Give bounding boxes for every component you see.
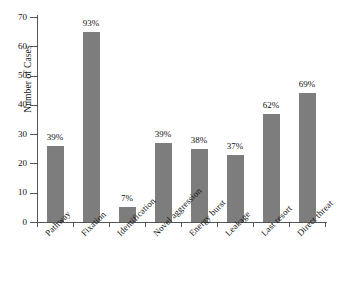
y-axis-tick [30,222,37,223]
x-axis-tick [289,222,290,227]
bar-value-label: 7% [107,194,147,203]
y-axis-tick [30,163,37,164]
bar [83,32,100,222]
y-axis-tick [30,17,37,18]
bar-value-label: 37% [215,142,255,151]
x-axis-tick [253,222,254,227]
bar [155,143,172,222]
y-axis-tick [30,105,37,106]
y-axis-tick [30,76,37,77]
bar [263,114,280,222]
x-axis-tick [217,222,218,227]
bar [191,149,208,222]
y-axis-tick [30,193,37,194]
bar [47,146,64,222]
y-axis-tick-label: 40 [0,100,27,109]
y-axis-tick-label: 60 [0,42,27,51]
y-axis-tick-label: 30 [0,130,27,139]
y-axis-tick-label: 20 [0,159,27,168]
x-axis-tick [325,222,326,227]
y-axis-tick-label: 70 [0,13,27,22]
bar [299,93,316,222]
x-axis-tick [37,222,38,227]
bar-value-label: 93% [71,19,111,28]
y-axis-tick-label: 50 [0,71,27,80]
bar-value-label: 39% [35,133,75,142]
bar-value-label: 39% [143,130,183,139]
y-axis-tick-label: 0 [0,218,27,227]
x-axis-tick [109,222,110,227]
x-axis-tick [181,222,182,227]
bar-value-label: 38% [179,136,219,145]
bar-chart: Number of Cases 010203040506070 PathwayF… [0,0,340,292]
bar-value-label: 69% [287,80,327,89]
plot-area [37,17,325,222]
y-axis-tick-label: 10 [0,188,27,197]
y-axis-tick [30,46,37,47]
x-axis-tick [145,222,146,227]
bar-value-label: 62% [251,101,291,110]
x-axis-line [37,222,327,223]
x-axis-tick [73,222,74,227]
